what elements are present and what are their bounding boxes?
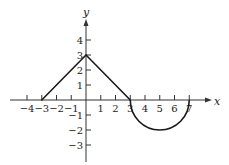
x-tick-label: −3 <box>34 103 49 114</box>
function-curve <box>42 55 190 130</box>
y-tick-label: 4 <box>77 35 83 46</box>
y-axis-arrow-icon <box>84 19 89 26</box>
x-tick-label: −4 <box>20 103 35 114</box>
x-tick-label: 2 <box>112 103 118 114</box>
curve-segment <box>42 55 86 100</box>
ticks: −4−3−2−112345674321−1−2−3 <box>20 35 193 151</box>
x-axis-arrow-icon <box>205 98 212 103</box>
axes <box>10 19 212 162</box>
y-tick-label: −1 <box>68 110 83 121</box>
curve-segment <box>86 55 130 100</box>
x-axis-label: x <box>214 95 221 108</box>
x-tick-label: 4 <box>142 103 148 114</box>
x-tick-label: 5 <box>157 103 163 114</box>
y-tick-label: −2 <box>68 125 83 136</box>
x-tick-label: 6 <box>171 103 177 114</box>
y-tick-label: 2 <box>77 65 83 76</box>
y-axis-label: y <box>82 6 90 19</box>
x-tick-label: −2 <box>49 103 64 114</box>
y-tick-label: 1 <box>77 80 83 91</box>
y-tick-label: −3 <box>68 140 83 151</box>
x-tick-label: 1 <box>98 103 104 114</box>
function-graph: −4−3−2−112345674321−1−2−3 x y <box>0 0 229 165</box>
